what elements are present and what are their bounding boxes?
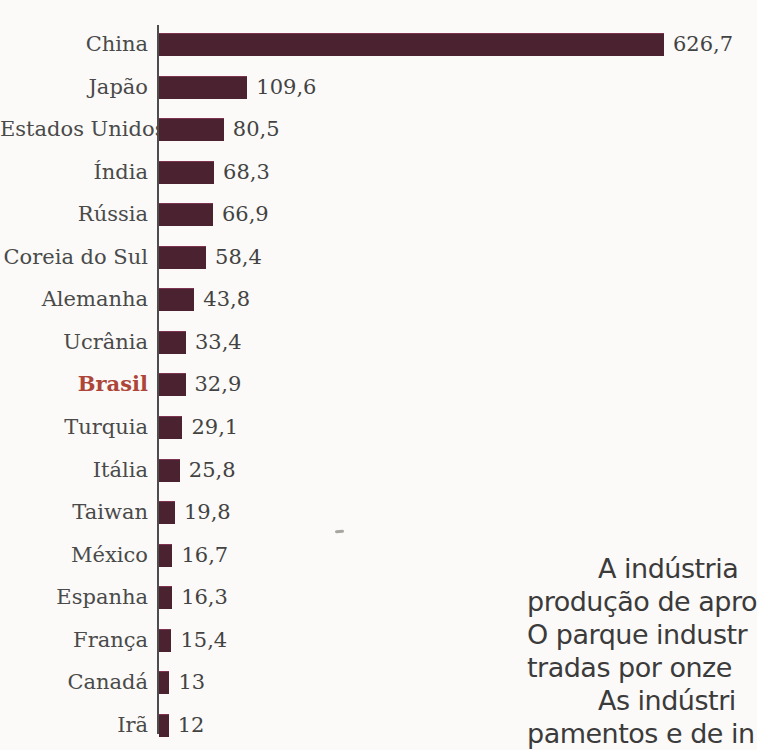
paragraph-line: O parque industr — [527, 618, 747, 651]
paragraph-line: pamentos e de in — [527, 717, 755, 750]
scan-artifact-speck — [335, 530, 344, 534]
paragraph-line: As indústri — [598, 684, 736, 717]
paragraph-line: tradas por onze — [527, 651, 732, 684]
paragraph-line: produção de apro — [527, 585, 757, 618]
paragraph-line: A indústria — [598, 552, 738, 585]
